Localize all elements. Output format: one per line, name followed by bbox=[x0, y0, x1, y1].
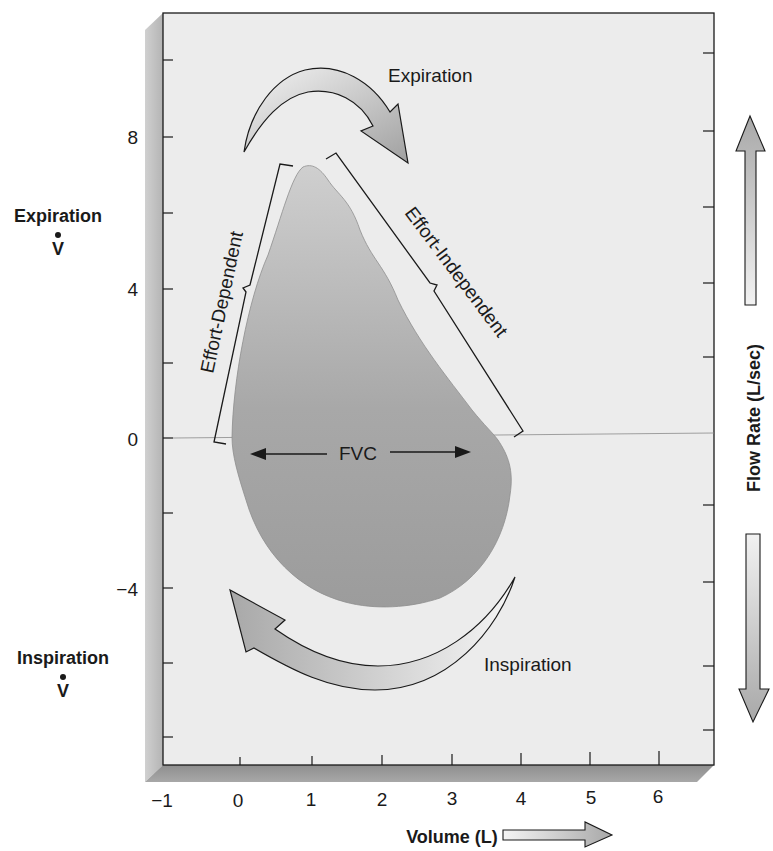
y-tick-label: −4 bbox=[116, 579, 138, 600]
flow-down-arrow-icon bbox=[739, 534, 769, 722]
panel-left-side bbox=[145, 13, 163, 782]
v-dot-icon bbox=[60, 674, 66, 680]
x-tick-label: 3 bbox=[447, 788, 458, 809]
x-axis-title: Volume (L) bbox=[406, 827, 498, 847]
x-tick-label: 5 bbox=[586, 787, 597, 808]
left-expiration-label: Expiration bbox=[14, 206, 102, 226]
inspiration-curve-label: Inspiration bbox=[484, 654, 572, 675]
fvc-label: FVC bbox=[339, 443, 377, 464]
x-tick-label: 0 bbox=[233, 790, 244, 811]
v-dot-icon bbox=[55, 232, 61, 238]
y-tick-label: 0 bbox=[127, 429, 138, 450]
y-axis-title: Flow Rate (L/sec) bbox=[744, 344, 764, 492]
x-tick-label: −1 bbox=[151, 790, 173, 811]
expiration-curve-label: Expiration bbox=[388, 65, 473, 86]
x-tick-label: 1 bbox=[306, 789, 317, 810]
volume-right-arrow-icon bbox=[503, 822, 612, 847]
left-inspiration-label-group: Inspiration V bbox=[17, 648, 109, 701]
v-dot-symbol: V bbox=[57, 681, 69, 701]
left-expiration-label-group: Expiration V bbox=[14, 206, 102, 259]
left-inspiration-label: Inspiration bbox=[17, 648, 109, 668]
x-tick-label: 6 bbox=[653, 786, 664, 807]
y-tick-label: 8 bbox=[127, 127, 138, 148]
panel-bottom-side bbox=[145, 765, 714, 782]
flow-volume-loop-diagram: Effort-Dependent Effort-Independent FVC … bbox=[0, 0, 773, 851]
v-dot-symbol: V bbox=[52, 239, 64, 259]
flow-up-arrow-icon bbox=[736, 116, 765, 305]
y-tick-labels: 8 4 0 −4 bbox=[116, 127, 138, 600]
x-tick-labels: −1 0 1 2 3 4 5 6 bbox=[151, 786, 663, 811]
x-tick-label: 2 bbox=[377, 789, 388, 810]
x-tick-label: 4 bbox=[516, 788, 527, 809]
y-tick-label: 4 bbox=[127, 279, 138, 300]
